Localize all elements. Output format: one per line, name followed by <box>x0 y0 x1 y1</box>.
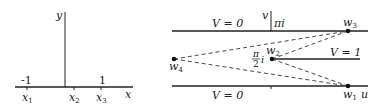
point-w4: w4 <box>169 60 183 74</box>
v-axis-label: v <box>262 9 269 22</box>
tick-label-neg1: -1 <box>21 74 32 87</box>
y-axis-label: y <box>55 9 63 22</box>
point-x2: x2 <box>69 91 80 105</box>
x-axis-label: x <box>125 88 132 101</box>
point-x1: x1 <box>22 91 33 105</box>
point-x3: x3 <box>96 91 107 105</box>
point-w3-dot <box>346 29 351 34</box>
point-w2-dot <box>270 57 275 62</box>
bottom-line-label: V = 0 <box>212 89 243 102</box>
tick-label-pos1: 1 <box>99 74 106 87</box>
top-line-label: V = 0 <box>212 17 243 30</box>
conformal-map-diagram: y x -1 1 x1 x2 x3 V = 0 V = 0 V = 1 v u … <box>0 0 378 109</box>
svg-text:i: i <box>261 54 264 65</box>
mid-value-label: π 2 i <box>252 49 264 69</box>
right-plane: V = 0 V = 0 V = 1 v u πi π 2 i w1 w2 w3 … <box>169 9 368 102</box>
point-w3: w3 <box>343 16 357 30</box>
svg-text:2: 2 <box>253 59 259 69</box>
top-value-label: πi <box>273 17 285 30</box>
point-w1: w1 <box>343 88 357 102</box>
u-axis-label: u <box>361 88 368 101</box>
middle-line-label: V = 1 <box>330 46 361 59</box>
left-plane: y x -1 1 x1 x2 x3 <box>15 9 133 105</box>
svg-text:π: π <box>252 49 260 59</box>
point-w2: w2 <box>266 44 280 58</box>
